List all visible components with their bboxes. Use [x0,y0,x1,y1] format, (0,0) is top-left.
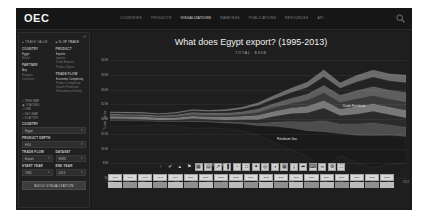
timeline-segment[interactable] [274,182,288,188]
nav-link-products[interactable]: PRODUCTS [151,16,172,20]
timeline-segment[interactable] [244,182,258,188]
download-button[interactable]: ⤓ [290,163,298,171]
timeline-year[interactable]: 2001 [199,174,213,181]
timeline-year[interactable]: 2006 [274,174,288,181]
timeline-year[interactable]: 2009 [320,174,334,181]
field-value: HS4 [25,142,31,148]
year-timeline[interactable]: 1995199619971998199920002001200220032004… [108,174,394,190]
timeline-year[interactable]: 2012 [365,174,379,181]
timeline-year[interactable]: 2007 [289,174,303,181]
timeline-segment[interactable] [335,182,349,188]
field-select[interactable]: Export▾ [22,155,53,162]
timeline-year[interactable]: 1997 [138,174,152,181]
radio-scatter[interactable]: ○ SCATTER [22,116,86,120]
nav-link-publications[interactable]: PUBLICATIONS [249,16,276,20]
link-button[interactable]: ∞ [318,163,326,171]
viz-treemap[interactable]: ▦ [195,163,203,171]
y-tick-label: $30B [101,88,108,92]
timeline-segment[interactable] [199,182,213,188]
timeline-segment[interactable] [229,182,243,188]
timeline-year[interactable]: 2011 [350,174,364,181]
timeline-year[interactable]: 2010 [335,174,349,181]
timeline-segment[interactable] [320,182,334,188]
viz-table[interactable]: ▦ [280,163,288,171]
search-icon[interactable] [396,14,405,23]
timeline-segment[interactable] [168,182,182,188]
group-option[interactable]: World [22,56,53,60]
timeline-bar[interactable] [108,182,394,188]
group-title: TRADE FLOW [56,72,87,76]
field-select[interactable]: HS4▾ [22,141,86,148]
nav-link-rankings[interactable]: RANKINGS [220,16,239,20]
viz-line[interactable]: ↗ [214,163,222,171]
share-button[interactable]: ➦ [299,163,307,171]
nav-link-countries[interactable]: COUNTRIES [120,16,142,20]
field-value: 2013 [59,170,66,176]
settings-button[interactable]: ⚙ [328,163,336,171]
gridline [110,104,406,105]
timeline-year[interactable]: 2013 [380,174,394,181]
field-select[interactable]: 1995▾ [22,169,53,176]
timeline-year[interactable]: 1996 [123,174,137,181]
viz-scatter[interactable]: ∷ [242,163,250,171]
field-start-year: START YEAR1995▾ [22,164,53,176]
field-trade-flow: TRADE FLOWExport▾ [22,150,53,162]
timeline-segment[interactable] [289,182,303,188]
viz-rings[interactable]: ◎ [261,163,269,171]
sidebar-tab-0[interactable]: ● TRADE VALUE [22,40,53,44]
group-option[interactable]: Product Space [56,65,87,69]
timeline-year[interactable]: 2005 [259,174,273,181]
group-option[interactable]: Relatedness Density [56,89,87,93]
close-icon[interactable]: ✕ [83,34,86,39]
timeline-year[interactable]: 2004 [244,174,258,181]
pencil-tool[interactable]: ✐ [166,163,174,171]
timeline-segment[interactable] [304,182,318,188]
viz-bar[interactable]: ▐ [223,163,231,171]
sidebar-group-country: COUNTRYEgyptWorld [22,47,53,60]
timeline-segment[interactable] [214,182,228,188]
cursor-tool[interactable]: ↑ [157,163,165,171]
field-select[interactable]: 2013▾ [56,169,87,176]
build-visualization-button[interactable]: BUILD VISUALIZATION [22,181,86,190]
timeline-segment[interactable] [380,182,394,188]
timeline-year[interactable]: 2000 [184,174,198,181]
timeline-segment[interactable] [350,182,364,188]
field-value: Export [25,156,34,162]
group-option[interactable]: Countries [22,77,53,81]
timeline-segment[interactable] [138,182,152,188]
sidebar-tab-1[interactable]: ● % OF TRADE [56,40,87,44]
nav-link-resources[interactable]: RESOURCES [285,16,308,20]
embed-button[interactable]: ⌨ [309,163,317,171]
field-select[interactable]: Egypt▾ [22,127,86,134]
y-tick-label: $20B [101,117,108,121]
page-title: What does Egypt export? (1995-2013) [92,37,410,47]
scatter-icon: ∷ [245,165,248,170]
nav-link-api[interactable]: API [317,16,323,20]
viz-geomap[interactable]: ◔ [233,163,241,171]
viz-pie[interactable]: ◑ [271,163,279,171]
timeline-year[interactable]: 2008 [304,174,318,181]
sidebar-tabs: ● TRADE VALUE● % OF TRADE [22,40,86,44]
field-row: TRADE FLOWExport▾DATASETHS92▾ [22,148,86,162]
timeline-year[interactable]: 1999 [168,174,182,181]
timeline-year[interactable]: 1995 [108,174,122,181]
timeline-year[interactable]: 1998 [153,174,167,181]
field-label: START YEAR [22,164,53,168]
viz-network[interactable]: ✦ [252,163,260,171]
timeline-segment[interactable] [123,182,137,188]
timeline-segment[interactable] [108,182,122,188]
timeline-segment[interactable] [153,182,167,188]
oec-logo[interactable]: OEC [24,12,49,24]
viz-stacked[interactable]: ▤ [204,163,212,171]
timeline-year[interactable]: 2002 [214,174,228,181]
timeline-segment[interactable] [259,182,273,188]
timeline-segment[interactable] [184,182,198,188]
timeline-years[interactable]: 1995199619971998199920002001200220032004… [108,174,394,181]
timeline-year[interactable]: 2003 [229,174,243,181]
timeline-segment[interactable] [365,182,379,188]
eraser-tool[interactable]: ▲ [176,163,184,171]
fullscreen-button[interactable]: ⛶ [337,163,345,171]
nav-link-visualizations[interactable]: VISUALIZATIONS [181,16,212,20]
flag-tool[interactable]: ⚑ [185,163,193,171]
field-select[interactable]: HS92▾ [56,155,87,162]
